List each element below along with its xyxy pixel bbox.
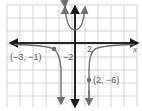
point-2-neg6 [87,78,91,82]
tick-label-neg2: −2 [63,53,73,62]
x-axis-label: x [133,45,137,54]
point-label-a: (−3, −1) [10,53,42,62]
tick-label-2: 2 [87,45,92,54]
point-label-b: (2, −6) [93,76,119,85]
point-neg3-neg1 [52,47,56,51]
